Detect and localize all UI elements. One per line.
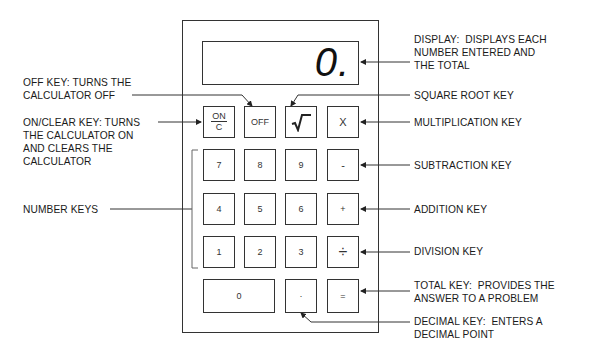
key-8-label: 8 <box>257 160 262 170</box>
key-6[interactable]: 6 <box>285 193 317 225</box>
division-key[interactable]: ÷ <box>327 236 359 268</box>
on-clear-key[interactable]: ON C <box>203 106 235 138</box>
callout-subtraction-key: SUBTRACTION KEY <box>414 159 512 172</box>
callout-division-key: DIVISION KEY <box>414 245 483 258</box>
total-key-label: = <box>340 291 345 301</box>
key-4[interactable]: 4 <box>203 193 235 225</box>
key-9[interactable]: 9 <box>285 149 317 181</box>
multiplication-key-label: X <box>339 116 346 128</box>
callout-decimal-key: DECIMAL KEY: ENTERS A DECIMAL POINT <box>414 315 543 341</box>
key-9-label: 9 <box>298 160 303 170</box>
key-2-label: 2 <box>257 247 262 257</box>
callout-square-root-key: SQUARE ROOT KEY <box>414 89 514 102</box>
key-5-label: 5 <box>257 204 262 214</box>
subtraction-key[interactable]: - <box>327 149 359 181</box>
callout-on-clear-key: ON/CLEAR KEY: TURNS THE CALCULATOR ON AN… <box>23 116 140 168</box>
key-2[interactable]: 2 <box>244 236 276 268</box>
callout-addition-key: ADDITION KEY <box>414 203 487 216</box>
key-3-label: 3 <box>298 247 303 257</box>
key-0[interactable]: 0 <box>203 279 275 313</box>
display-value: 0. <box>315 38 350 86</box>
addition-key[interactable]: + <box>327 193 359 225</box>
off-key-label: OFF <box>251 117 269 127</box>
key-0-label: 0 <box>236 291 241 301</box>
clear-label: C <box>216 122 223 133</box>
key-3[interactable]: 3 <box>285 236 317 268</box>
calculator-diagram: 0. ON C OFF X 7 8 9 - 4 5 6 + 1 2 3 ÷ 0 … <box>0 0 590 358</box>
callout-number-keys: NUMBER KEYS <box>23 203 98 216</box>
key-7[interactable]: 7 <box>203 149 235 181</box>
key-8[interactable]: 8 <box>244 149 276 181</box>
key-4-label: 4 <box>216 204 221 214</box>
decimal-key[interactable]: · <box>285 279 317 313</box>
callout-multiplication-key: MULTIPLICATION KEY <box>414 116 522 129</box>
addition-key-label: + <box>340 204 345 214</box>
key-1[interactable]: 1 <box>203 236 235 268</box>
key-7-label: 7 <box>216 160 221 170</box>
division-icon: ÷ <box>339 243 348 261</box>
subtraction-key-label: - <box>341 159 345 171</box>
calculator-display: 0. <box>202 41 359 85</box>
square-root-key[interactable] <box>285 106 317 138</box>
key-5[interactable]: 5 <box>244 193 276 225</box>
key-1-label: 1 <box>216 247 221 257</box>
off-key[interactable]: OFF <box>244 106 276 138</box>
callout-display: DISPLAY: DISPLAYS EACH NUMBER ENTERED AN… <box>414 33 547 72</box>
square-root-icon <box>290 112 312 132</box>
decimal-key-label: · <box>300 291 303 301</box>
total-key[interactable]: = <box>327 279 359 313</box>
callout-total-key: TOTAL KEY: PROVIDES THE ANSWER TO A PROB… <box>414 279 555 305</box>
multiplication-key[interactable]: X <box>327 106 359 138</box>
on-label: ON <box>211 111 227 122</box>
key-6-label: 6 <box>298 204 303 214</box>
callout-off-key: OFF KEY: TURNS THE CALCULATOR OFF <box>23 76 131 102</box>
